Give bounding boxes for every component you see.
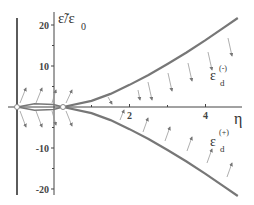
fixed-point (61, 105, 66, 110)
chart: 2010-10-2024 ε̃/ε 0 η ε d (-) ε d (+) (0, 0, 254, 205)
fixed-point (15, 105, 20, 110)
x-tick-label: 4 (203, 110, 208, 121)
curve-plus (63, 107, 238, 196)
series-label-plus-sub: d (220, 144, 225, 154)
y-axis-label: ε̃/ε (58, 10, 75, 26)
series-label-minus-sub: d (220, 78, 225, 88)
series-label-minus-sup: (-) (219, 64, 227, 73)
y-tick-label: -20 (36, 184, 49, 195)
y-tick-label: -10 (36, 143, 49, 154)
x-axis-label: η (234, 110, 242, 128)
x-tick-label: 2 (127, 110, 132, 121)
y-tick-label: 20 (39, 20, 49, 31)
series-label-plus-sup: (+) (219, 128, 229, 137)
y-tick-label: 10 (39, 61, 49, 72)
series-label-minus: ε (210, 68, 216, 83)
series-label-plus: ε (210, 134, 216, 149)
y-axis-label-sub: 0 (81, 21, 86, 32)
